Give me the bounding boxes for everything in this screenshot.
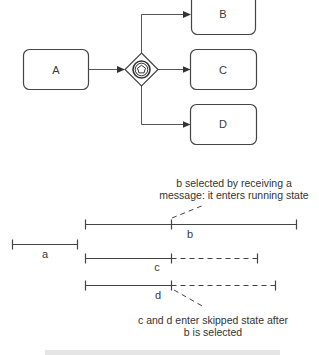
annotation-leader-top	[172, 205, 204, 218]
task-b-label: B	[219, 8, 226, 20]
flow-gateway-to-d[interactable]	[142, 86, 190, 125]
task-a-label: A	[52, 64, 60, 76]
annotation-bottom: c and d enter skipped state after b is s…	[138, 314, 289, 338]
event-based-gateway[interactable]	[125, 53, 158, 86]
task-a[interactable]: A	[24, 50, 89, 90]
timeline-bar-d	[86, 281, 276, 291]
diagram-canvas: A B C D	[0, 0, 319, 355]
timeline-label-b: b	[187, 228, 193, 240]
annotation-top: b selected by receiving a message: it en…	[159, 177, 309, 201]
annotation-leader-bottom	[174, 290, 204, 307]
timeline-label-c: c	[154, 261, 160, 273]
annotation-bottom-line1: c and d enter skipped state after	[138, 314, 289, 326]
annotation-top-line1: b selected by receiving a	[176, 177, 292, 189]
cropped-caption	[45, 350, 280, 355]
task-d[interactable]: D	[191, 105, 257, 145]
annotation-bottom-line2: b is selected	[184, 326, 243, 338]
task-b[interactable]: B	[192, 0, 256, 35]
task-c[interactable]: C	[191, 50, 257, 90]
task-d-label: D	[219, 118, 227, 130]
timeline-bar-c	[86, 254, 258, 264]
annotation-top-line2: message: it enters running state	[159, 189, 309, 201]
task-c-label: C	[219, 64, 227, 76]
flow-gateway-to-b[interactable]	[142, 15, 191, 54]
timeline-label-a: a	[42, 248, 49, 260]
timeline-label-d: d	[155, 289, 161, 301]
